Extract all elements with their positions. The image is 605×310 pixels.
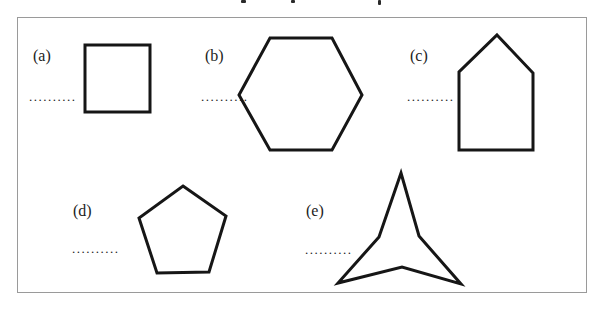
clipped-text-fragment bbox=[378, 0, 381, 5]
answer-blank-d: .......... bbox=[72, 242, 120, 255]
shape-label-d: (d) bbox=[73, 203, 92, 219]
answer-blank-c: .......... bbox=[407, 90, 455, 103]
shape-label-b: (b) bbox=[205, 48, 224, 64]
answer-blank-a: .......... bbox=[29, 90, 77, 103]
answer-blank-e: .......... bbox=[305, 243, 353, 256]
shape-label-e: (e) bbox=[306, 203, 324, 219]
shape-label-c: (c) bbox=[410, 48, 428, 64]
clipped-text-fragment bbox=[241, 0, 246, 3]
clipped-text-fragment bbox=[291, 0, 295, 3]
answer-blank-b: .......... bbox=[201, 90, 249, 103]
worksheet-figure: (a) (b) (c) (d) (e) .......... .........… bbox=[0, 0, 605, 310]
shape-label-a: (a) bbox=[33, 48, 51, 64]
